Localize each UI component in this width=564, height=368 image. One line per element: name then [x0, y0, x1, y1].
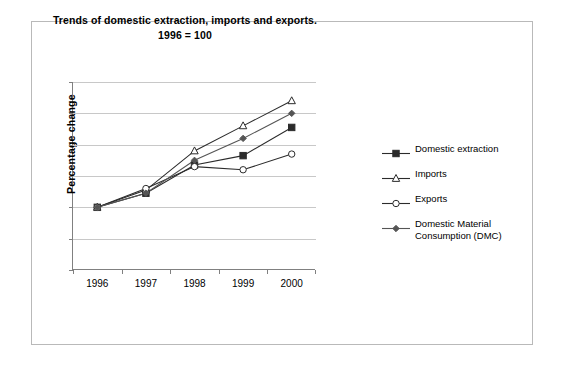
data-point-marker: [393, 200, 399, 206]
legend-marker-icon: [381, 170, 411, 181]
x-axis-tick-label: 1997: [118, 278, 174, 289]
data-point-marker: [393, 150, 399, 156]
legend-label-line2: Consumption (DMC): [415, 230, 531, 242]
chart-title: Trends of domestic extraction, imports a…: [0, 13, 370, 28]
x-axis-tick: [315, 270, 316, 274]
x-axis-tick: [267, 270, 268, 274]
x-axis-tick-label: 2000: [264, 278, 320, 289]
legend-marker-icon: [381, 145, 411, 156]
data-point-marker: [240, 167, 246, 173]
data-point-marker: [239, 122, 246, 129]
legend-marker-icon: [381, 220, 411, 231]
data-point-marker: [289, 110, 295, 116]
chart-title-block: Trends of domestic extraction, imports a…: [0, 13, 370, 43]
chart-container: Trends of domestic extraction, imports a…: [0, 0, 564, 368]
x-axis-tick-label: 1999: [215, 278, 271, 289]
data-point-marker: [289, 151, 295, 157]
data-point-marker: [191, 163, 197, 169]
data-point-marker: [289, 124, 295, 130]
plot-area: Percentage change 8090100110120130140199…: [72, 82, 315, 270]
legend-label: Domestic Material: [415, 218, 531, 230]
series-lines: [73, 82, 316, 270]
x-axis-tick: [219, 270, 220, 274]
data-point-marker: [392, 175, 399, 182]
legend-label: Domestic extraction: [415, 143, 531, 155]
data-point-marker: [240, 152, 246, 158]
legend-item[interactable]: Imports: [381, 168, 531, 183]
legend-item[interactable]: Domestic MaterialConsumption (DMC): [381, 218, 531, 242]
legend-item[interactable]: Exports: [381, 193, 531, 208]
chart-subtitle: 1996 = 100: [0, 28, 370, 43]
x-axis-tick-label: 1996: [69, 278, 125, 289]
legend-marker-icon: [381, 195, 411, 206]
x-axis-tick: [170, 270, 171, 274]
x-axis-tick: [73, 270, 74, 274]
data-point-marker: [393, 225, 399, 231]
x-axis-tick-label: 1998: [167, 278, 223, 289]
data-point-marker: [288, 97, 295, 104]
legend-item[interactable]: Domestic extraction: [381, 143, 531, 158]
legend-label: Exports: [415, 193, 531, 205]
chart-legend: Domestic extractionImportsExportsDomesti…: [381, 143, 531, 252]
legend-label: Imports: [415, 168, 531, 180]
data-point-marker: [240, 135, 246, 141]
data-point-marker: [191, 147, 198, 154]
x-axis-tick: [122, 270, 123, 274]
